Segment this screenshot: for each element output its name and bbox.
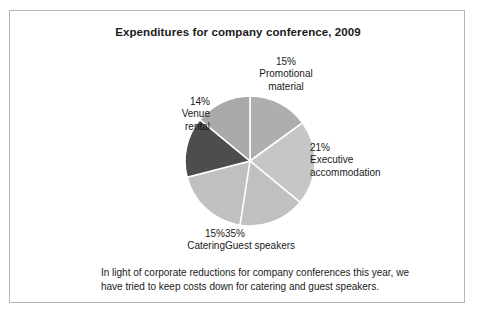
slice-label-promotional-material: 15%Promotionalmaterial: [226, 56, 346, 93]
slice-label-executive-accommodation: 21%Executiveaccommodation: [310, 142, 460, 179]
figure-frame: Expenditures for company conference, 200…: [9, 10, 465, 303]
slice-label-catering: 15%Catering: [115, 228, 225, 253]
pie-chart: 15%Promotionalmaterial 21%Executiveaccom…: [10, 11, 466, 261]
slice-label-venue-rental: 14%Venuerental: [105, 96, 210, 133]
slice-label-guest-speakers: 35%Guest speakers: [225, 228, 375, 253]
pie-svg: [10, 11, 466, 261]
figure-caption: In light of corporate reductions for com…: [101, 266, 413, 294]
